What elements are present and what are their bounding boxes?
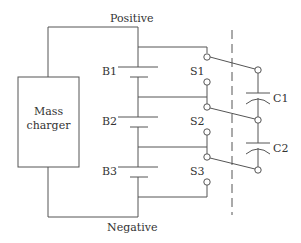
capacitor-c2-label: C2 [273,143,288,154]
switch-s2-label: S2 [190,116,205,127]
switch-s1-label: S1 [190,66,205,77]
positive-label: Positive [110,13,153,24]
battery-b2-label: B2 [102,116,117,127]
capacitor-c1-label: C1 [273,93,288,104]
charger-label: Mass charger [18,105,79,133]
switch-s3-label: S3 [190,166,205,177]
negative-wire [48,167,138,217]
circuit-diagram: Positive Negative Mass charger B1 B2 B3 … [0,0,301,243]
positive-wire [48,27,138,77]
battery-b1-label: B1 [102,66,117,77]
negative-label: Negative [107,222,157,233]
battery-b3-label: B3 [102,166,117,177]
